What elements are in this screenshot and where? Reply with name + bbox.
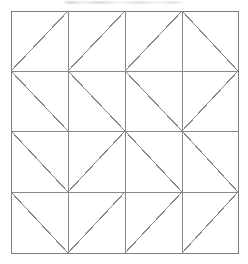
cell-diagonal-r3-c3 (182, 192, 238, 253)
cell-diagonal-r2-c0 (11, 131, 68, 192)
cell-diagonal-r3-c1 (68, 192, 125, 253)
diagonal-grid-tiling (0, 0, 248, 264)
cell-diagonal-r2-c1 (68, 131, 125, 192)
cell-diagonal-r0-c2 (125, 11, 182, 71)
cell-diagonal-r2-c3 (182, 131, 238, 192)
cell-diagonal-r1-c0 (11, 71, 68, 131)
cell-diagonal-r1-c1 (68, 71, 125, 131)
cell-diagonal-r0-c3 (182, 11, 238, 71)
cell-diagonal-r0-c0 (11, 11, 68, 71)
cell-diagonal-r3-c0 (11, 192, 68, 253)
cell-diagonal-r3-c2 (125, 192, 182, 253)
cell-diagonal-r1-c2 (125, 71, 182, 131)
cell-diagonal-r1-c3 (182, 71, 238, 131)
cell-diagonal-r0-c1 (68, 11, 125, 71)
figure-root (0, 0, 248, 264)
cell-diagonal-r2-c2 (125, 131, 182, 192)
